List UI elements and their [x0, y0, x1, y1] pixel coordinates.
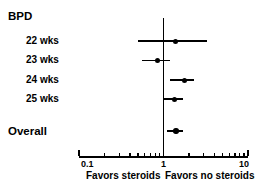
x-axis-tick-minor [203, 153, 204, 156]
point-estimate-marker [182, 78, 187, 83]
axis-caption-favors-steroids: Favors steroids [86, 171, 160, 180]
x-axis-tick-minor [222, 153, 223, 156]
x-axis-tick-major [247, 150, 248, 156]
x-axis-tick-minor [159, 153, 160, 156]
x-axis-tick-minor [234, 153, 235, 156]
x-axis-tick-minor [229, 153, 230, 156]
axis-tick-label-low: 0.1 [81, 160, 94, 169]
x-axis-tick-minor [188, 153, 189, 156]
summary-estimate-marker [173, 128, 178, 133]
point-estimate-marker [172, 97, 177, 102]
x-axis-tick-minor [137, 153, 138, 156]
x-axis-tick-minor [239, 153, 240, 156]
x-axis-tick-minor [144, 153, 145, 156]
x-axis-tick-minor [129, 153, 130, 156]
forest-plot-figure: BPD 22 wks 23 wks 24 wks 25 wks Overall … [0, 0, 265, 180]
x-axis-tick-minor [155, 153, 156, 156]
x-axis-spine [79, 156, 248, 158]
axis-caption-favors-no-steroids: Favors no steroids [165, 171, 254, 180]
x-axis-tick-minor [214, 153, 215, 156]
x-axis-tick-major [163, 150, 164, 156]
x-axis-tick-major [78, 150, 79, 156]
point-estimate-marker [173, 39, 178, 44]
axis-tick-label-high: 10 [239, 160, 249, 169]
x-axis-tick-minor [104, 153, 105, 156]
axis-tick-label-mid: 1 [161, 160, 166, 169]
x-axis-tick-minor [119, 153, 120, 156]
x-axis-tick-minor [150, 153, 151, 156]
x-axis-tick-minor [243, 153, 244, 156]
null-effect-line [163, 18, 165, 156]
point-estimate-marker [155, 58, 160, 63]
plot-area [0, 0, 265, 180]
